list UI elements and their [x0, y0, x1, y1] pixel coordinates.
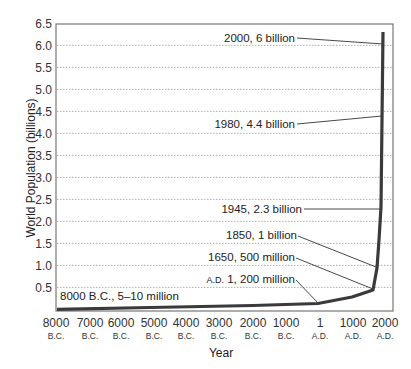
y-tick: 1.0 — [35, 259, 52, 273]
y-tick: 0.5 — [35, 281, 52, 295]
x-tick-era: B.C. — [178, 331, 195, 341]
annotation-8000bc: 8000 B.C., 5–10 million — [60, 290, 179, 302]
x-tick-year: 1000 — [340, 316, 367, 330]
annotation-1650: 1650, 500 million — [208, 251, 295, 263]
y-tick: 6.5 — [35, 17, 52, 31]
x-tick-era: B.C. — [278, 331, 295, 341]
x-tick-era: A.D. — [377, 331, 394, 341]
x-tick-era: B.C. — [48, 331, 65, 341]
x-tick-era: B.C. — [146, 331, 163, 341]
x-tick-era: A.D. — [312, 331, 329, 341]
x-tick-year: 1000 — [273, 316, 300, 330]
y-tick: 6.0 — [35, 39, 52, 53]
x-axis-label: Year — [209, 346, 233, 360]
x-tick-year: 2000 — [240, 316, 267, 330]
x-tick-year: 5000 — [141, 316, 168, 330]
x-tick-year: 8000 — [43, 316, 70, 330]
x-tick-era: B.C. — [211, 331, 228, 341]
y-tick: 1.5 — [35, 237, 52, 251]
annotation-ad1-rest: 1, 200 million — [224, 273, 295, 285]
x-tick-year: 2000 — [372, 316, 399, 330]
y-axis-label: World Population (billions) — [24, 98, 38, 237]
annotation-1945: 1945, 2.3 billion — [221, 203, 302, 215]
x-axis-ticks: 8000 B.C. 7000 B.C. 6000 B.C. 5000 B.C. … — [43, 316, 399, 341]
annotation-ad1-prefix: A.D. — [207, 275, 225, 285]
x-tick-era: B.C. — [113, 331, 130, 341]
y-tick: 5.0 — [35, 83, 52, 97]
x-tick-era: A.D. — [345, 331, 362, 341]
annotation-1850: 1850, 1 billion — [226, 229, 297, 241]
x-tick-era: B.C. — [82, 331, 99, 341]
x-tick-era: B.C. — [245, 331, 262, 341]
x-tick-year: 4000 — [173, 316, 200, 330]
y-tick: 5.5 — [35, 61, 52, 75]
population-chart: 6.5 6.0 5.5 5.0 4.5 4.0 3.5 3.0 2.5 2.0 … — [0, 0, 411, 369]
x-tick-year: 3000 — [206, 316, 233, 330]
x-tick-year: 1 — [317, 316, 324, 330]
annotation-2000: 2000, 6 billion — [224, 32, 295, 44]
annotation-ad1: A.D. 1, 200 million — [207, 273, 295, 285]
x-tick-year: 6000 — [108, 316, 135, 330]
annotation-1980: 1980, 4.4 billion — [214, 118, 295, 130]
x-tick-year: 7000 — [77, 316, 104, 330]
